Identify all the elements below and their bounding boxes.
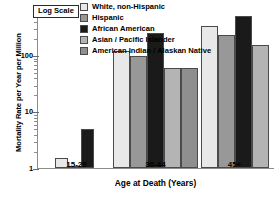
y-axis-minor-tick xyxy=(34,115,38,116)
y-axis-minor-tick xyxy=(34,125,38,126)
x-axis-tick-label: 15-29 xyxy=(66,160,86,169)
y-axis-title: Mortality Rate per Year per Million xyxy=(14,19,23,167)
y-axis-minor-tick xyxy=(34,121,38,122)
y-axis-minor-tick xyxy=(34,118,38,119)
y-axis-major-tick xyxy=(33,112,39,113)
legend-item: American Indian / Alaskan Native xyxy=(80,45,211,56)
legend-label: Hispanic xyxy=(92,14,124,22)
chart-legend: White, non-HispanicHispanicAfrican Ameri… xyxy=(80,1,211,56)
bar xyxy=(235,16,252,168)
legend-item: African American xyxy=(80,23,211,34)
bar xyxy=(113,51,130,168)
y-axis-minor-tick xyxy=(34,135,38,136)
x-axis-tick-label: 45+ xyxy=(228,160,242,169)
y-axis-minor-tick xyxy=(34,69,38,70)
y-axis-minor-tick xyxy=(34,152,38,153)
y-axis-line xyxy=(37,12,38,169)
legend-swatch xyxy=(80,47,88,55)
legend-swatch xyxy=(80,14,88,22)
y-axis-minor-tick xyxy=(34,65,38,66)
legend-label: White, non-Hispanic xyxy=(92,3,165,11)
y-axis-minor-tick xyxy=(34,39,38,40)
y-axis-minor-tick xyxy=(34,95,38,96)
log-scale-badge: Log Scale xyxy=(33,5,79,18)
legend-label: American Indian / Alaskan Native xyxy=(92,47,211,55)
bar xyxy=(218,35,235,168)
y-axis-tick-label: 1 xyxy=(29,165,33,172)
bar xyxy=(130,56,147,168)
y-axis-minor-tick xyxy=(34,59,38,60)
bar xyxy=(181,68,198,168)
bar xyxy=(252,45,269,168)
legend-swatch xyxy=(80,3,88,11)
y-axis-minor-tick xyxy=(34,22,38,23)
legend-item: White, non-Hispanic xyxy=(80,1,211,12)
x-axis-title: Age at Death (Years) xyxy=(37,178,274,188)
y-axis-minor-tick xyxy=(34,29,38,30)
legend-label: African American xyxy=(92,25,155,33)
y-axis-major-tick xyxy=(33,169,39,170)
y-axis-tick-label: 100 xyxy=(21,52,33,59)
y-axis-major-tick xyxy=(33,56,39,57)
y-axis-minor-tick xyxy=(34,61,38,62)
legend-swatch xyxy=(80,25,88,33)
mortality-rate-bar-chart: Mortality Rate per Year per Million 1101… xyxy=(0,0,278,202)
y-axis-minor-tick xyxy=(34,142,38,143)
legend-item: Asian / Pacific Islander xyxy=(80,34,211,45)
legend-label: Asian / Pacific Islander xyxy=(92,36,175,44)
x-axis-tick-label: 30-44 xyxy=(145,160,165,169)
y-axis-minor-tick xyxy=(34,129,38,130)
bar xyxy=(164,68,181,168)
legend-item: Hispanic xyxy=(80,12,211,23)
y-axis-minor-tick xyxy=(34,78,38,79)
legend-swatch xyxy=(80,36,88,44)
y-axis-tick-label: 10 xyxy=(25,109,33,116)
y-axis-minor-tick xyxy=(34,86,38,87)
y-axis-minor-tick xyxy=(34,73,38,74)
